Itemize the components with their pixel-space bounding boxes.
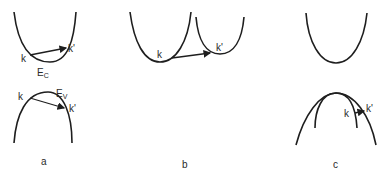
label-ec: EC — [37, 67, 49, 79]
label-k: k — [18, 91, 24, 102]
label-k: k — [21, 53, 27, 64]
panel-caption: c — [333, 159, 338, 170]
scattering-arrow-valence — [30, 98, 64, 108]
label-k-prime: k' — [366, 103, 373, 114]
label-k: k — [157, 49, 163, 60]
panel-b: k k' b — [130, 12, 244, 170]
panel-a: k k' EC k k' EV a — [14, 12, 76, 167]
heavy-hole-band-curve — [296, 93, 376, 145]
label-k-prime: k' — [69, 103, 76, 114]
intervalley-arrow — [172, 53, 210, 58]
label-k-prime: k' — [216, 42, 223, 53]
panel-caption: b — [182, 159, 188, 170]
label-ev: EV — [56, 88, 68, 100]
label-k-prime: k' — [68, 43, 75, 54]
conduction-band-curve — [306, 13, 367, 63]
scattering-arrow-conduction — [30, 48, 66, 55]
panel-c: k k' c — [296, 13, 376, 170]
band-diagram: k k' EC k k' EV a k k' b k k' c — [0, 0, 386, 179]
panel-caption: a — [41, 156, 47, 167]
label-k: k — [344, 108, 350, 119]
